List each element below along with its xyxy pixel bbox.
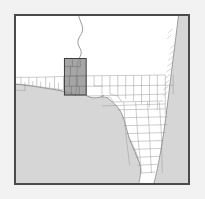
map-frame bbox=[14, 14, 190, 185]
study-area-box[interactable] bbox=[64, 58, 86, 95]
figure-container bbox=[0, 0, 205, 199]
map-canvas bbox=[15, 15, 189, 184]
